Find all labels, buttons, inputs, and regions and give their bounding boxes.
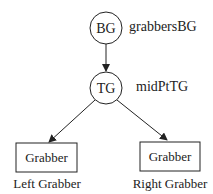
node-right-label: Right Grabber — [133, 176, 208, 191]
node-tg-text: TG — [97, 81, 116, 96]
edge-tg-to-left — [49, 100, 95, 142]
node-right-grabber: Grabber — [140, 142, 200, 171]
node-bg-text: BG — [96, 21, 115, 36]
node-bg-label: grabbersBG — [129, 19, 197, 34]
edge-tg-to-right — [117, 100, 167, 140]
node-bg: BG — [90, 12, 122, 44]
node-left-text: Grabber — [25, 150, 68, 165]
node-right-text: Grabber — [149, 149, 192, 164]
node-left-label: Left Grabber — [13, 176, 81, 191]
node-tg: TG — [90, 72, 122, 104]
node-tg-label: midPtTG — [136, 79, 188, 94]
node-left-grabber: Grabber — [16, 143, 77, 172]
scene-graph-diagram: BG grabbersBG TG midPtTG Grabber Left Gr… — [0, 0, 213, 194]
